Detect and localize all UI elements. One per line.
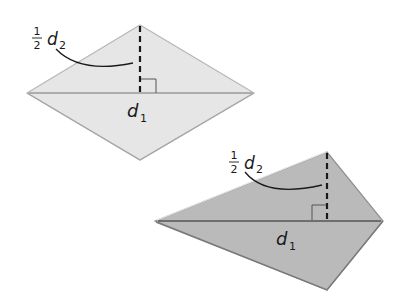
kite-sub-2: 2 (256, 163, 263, 176)
rhombus-sub-2: 2 (59, 39, 66, 52)
rhombus-d1-var: d (127, 100, 139, 121)
kite-d1-sub: 1 (289, 240, 296, 253)
kite-d1-var: d (276, 228, 288, 249)
kite-fraction-denominator: 2 (231, 163, 238, 176)
kite-fraction-numerator: 1 (231, 149, 238, 162)
diagonals-diagram: 1 2 d 2 d 1 1 2 d 2 (0, 0, 403, 306)
rhombus-fraction-numerator: 1 (34, 25, 41, 38)
kite-label-half-d2: 1 2 d 2 (229, 149, 263, 176)
rhombus-d1-sub: 1 (140, 112, 147, 125)
rhombus-figure: 1 2 d 2 d 1 (27, 25, 254, 160)
rhombus-fraction-denominator: 2 (34, 39, 41, 52)
rhombus-label-half-d2: 1 2 d 2 (32, 25, 66, 52)
kite-figure: 1 2 d 2 d 1 (155, 149, 383, 290)
kite-var-d: d (244, 153, 255, 173)
rhombus-var-d: d (47, 29, 58, 49)
